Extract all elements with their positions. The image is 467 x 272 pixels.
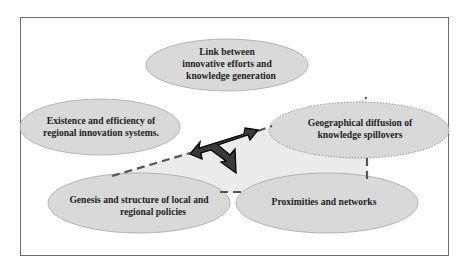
node-genesis-label: Genesis and structure of local and regio… [50, 194, 228, 218]
label-line: regional innovation systems. [22, 127, 180, 139]
label-line: regional policies [50, 206, 228, 218]
node-existence-label: Existence and efficiency of regional inn… [22, 115, 180, 139]
node-geo-label: Geographical diffusion of knowledge spil… [274, 117, 446, 141]
label-line: knowledge spillovers [274, 129, 446, 141]
label-line: innovative efforts and [146, 58, 308, 70]
node-proximities-label: Proximities and networks [238, 196, 410, 208]
label-line: Link between [146, 46, 308, 58]
label-line: Existence and efficiency of [22, 115, 180, 127]
label-line: Geographical diffusion of [274, 117, 446, 129]
node-link-label: Link between innovative efforts and know… [146, 46, 308, 82]
label-line: Genesis and structure of local and [50, 194, 228, 206]
label-line: Proximities and networks [238, 196, 410, 208]
label-line: knowledge generation [146, 70, 308, 82]
